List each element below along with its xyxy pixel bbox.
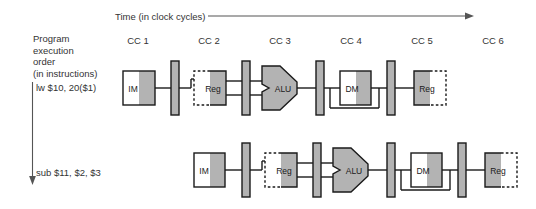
row2-pipeline-register-id-ex [313, 143, 321, 197]
time-axis-arrow [208, 13, 474, 20]
row2-stage-reg: Reg [265, 153, 297, 187]
row1-alu-label: ALU [275, 84, 292, 94]
pipeline-diagram-figure: Time (in clock cycles) Programexecutiono… [0, 0, 536, 209]
row1-reg-label: Reg [205, 84, 221, 94]
row2-reg-wb-label: Reg [490, 166, 506, 176]
row1-stage-dm: DM [340, 71, 371, 105]
row1-pipeline-register-mem-wb [387, 61, 395, 115]
row2-stage-dm: DM [411, 153, 442, 187]
row2-pipeline-register-if-id [242, 143, 250, 197]
row1-pipeline-register-ex-mem [316, 61, 324, 115]
row2-stage-im: IM [194, 153, 225, 187]
row1-pipeline-register-id-ex [242, 61, 250, 115]
row1-pipeline-register-if-id [171, 61, 179, 115]
row1-reg-wb-label: Reg [419, 84, 435, 94]
instruction-row-2: IM Reg ALU DM [194, 143, 517, 197]
program-order-axis-arrow [29, 82, 36, 185]
row2-pipeline-register-mem-wb [458, 143, 466, 197]
row2-dm-label: DM [416, 166, 429, 176]
row1-stage-im: IM [123, 71, 155, 105]
row1-im-label: IM [128, 84, 137, 94]
pipeline-datapath-svg: IM Reg ALU [0, 0, 536, 209]
row2-pipeline-register-ex-mem [387, 143, 395, 197]
row1-stage-alu: ALU [262, 66, 297, 110]
row1-dm-label: DM [345, 84, 358, 94]
row2-im-label: IM [199, 166, 208, 176]
row1-stage-reg-writeback: Reg [414, 71, 446, 105]
row2-alu-label: ALU [346, 166, 363, 176]
row1-stage-reg: Reg [194, 71, 226, 105]
row2-stage-alu: ALU [333, 148, 368, 192]
instruction-row-1: IM Reg ALU [123, 61, 446, 115]
row2-reg-label: Reg [276, 166, 292, 176]
row2-stage-reg-writeback: Reg [485, 153, 517, 187]
